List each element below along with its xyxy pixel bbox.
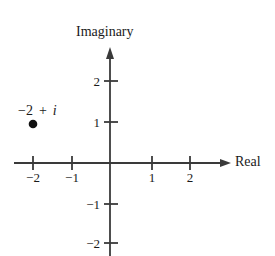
imaginary-axis-arrowhead xyxy=(106,47,114,59)
y-tick-label-2: 2 xyxy=(86,75,100,88)
real-axis-arrowhead xyxy=(220,159,231,167)
point-annotation-label: −2+i xyxy=(18,104,57,118)
x-tick-label-minus1: −1 xyxy=(62,171,82,184)
x-tick-label-minus2: −2 xyxy=(23,171,43,184)
y-tick-label-1: 1 xyxy=(86,116,100,129)
y-tick-label-minus2: −2 xyxy=(80,237,100,250)
data-point-minus2-plus-i xyxy=(29,120,38,129)
complex-plane-plot: Imaginary Real −2 −1 1 2 2 1 −1 −2 −2+i xyxy=(0,0,275,256)
point-label-real-part: −2 xyxy=(18,103,33,118)
point-label-imaginary-unit: i xyxy=(53,103,57,118)
x-tick-label-1: 1 xyxy=(145,171,159,184)
real-axis-title: Real xyxy=(235,155,261,169)
imaginary-axis-title: Imaginary xyxy=(76,25,134,39)
point-label-operator: + xyxy=(39,103,47,118)
plot-canvas xyxy=(0,0,275,256)
x-tick-label-2: 2 xyxy=(183,171,197,184)
y-tick-label-minus1: −1 xyxy=(80,198,100,211)
